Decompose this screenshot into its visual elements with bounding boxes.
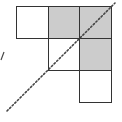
- tick-mark: [1, 52, 4, 60]
- diagram-canvas: [0, 0, 122, 122]
- symmetry-line-layer: [0, 0, 122, 122]
- dotted-diagonal-line: [7, 3, 115, 111]
